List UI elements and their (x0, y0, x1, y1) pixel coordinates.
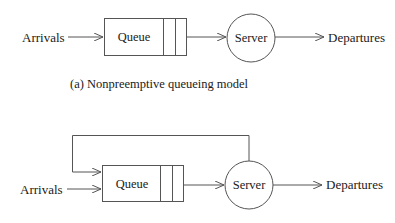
queue-box-a: Queue (105, 19, 187, 56)
server-circle-a: Server (227, 14, 275, 62)
server-label-b: Server (233, 178, 266, 192)
queue-label-b: Queue (116, 177, 149, 191)
queue-label-a: Queue (118, 30, 151, 44)
diagram-a-nonpreemptive: Arrivals Queue Server Departures (a) Non… (22, 14, 385, 91)
queue-box-b: Queue (103, 166, 184, 202)
caption-a: (a) Nonpreemptive queueing model (70, 77, 249, 91)
arrivals-label-a: Arrivals (22, 30, 65, 45)
arrivals-label-b: Arrivals (20, 182, 63, 197)
departures-label-b: Departures (326, 177, 383, 192)
diagram-b-feedback: Arrivals Queue Server Departures (20, 136, 383, 210)
queueing-diagrams: Arrivals Queue Server Departures (a) Non… (0, 0, 395, 223)
server-label-a: Server (235, 31, 268, 45)
server-circle-b: Server (225, 161, 273, 209)
departures-label-a: Departures (328, 30, 385, 45)
